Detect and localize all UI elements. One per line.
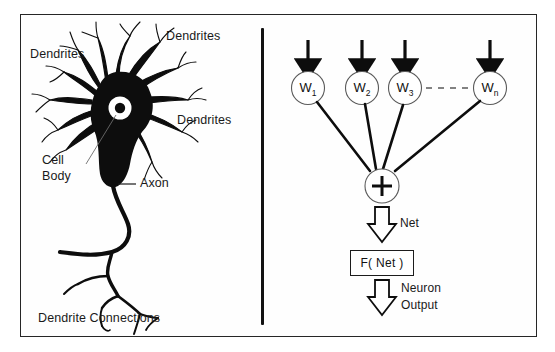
artificial-neuron-panel: W1 W2 W3 Wn bbox=[265, 14, 537, 337]
panel-divider bbox=[261, 28, 264, 325]
label-neuron-output-line1: Neuron bbox=[401, 282, 441, 295]
output-block-arrow bbox=[368, 280, 396, 315]
label-axon: Axon bbox=[140, 177, 169, 191]
label-dendrites-right: Dendrites bbox=[177, 114, 231, 128]
label-dendrites-left: Dendrites bbox=[30, 48, 84, 62]
input-arrows bbox=[308, 40, 490, 63]
label-cell-body-line1: Cell bbox=[42, 154, 64, 168]
label-cell-body-line2: Body bbox=[42, 170, 71, 184]
label-dendrite-connections: Dendrite Connections bbox=[38, 312, 160, 326]
nucleus-core bbox=[115, 103, 125, 113]
label-neuron-output-line2: Output bbox=[401, 299, 438, 312]
soma-cell-body bbox=[91, 72, 153, 188]
net-block-arrow bbox=[368, 207, 396, 242]
activation-function-box: F( Net ) bbox=[350, 250, 414, 276]
label-dendrites-top-right: Dendrites bbox=[166, 30, 220, 44]
biological-neuron-panel: Dendrites Dendrites Dendrites Cell Body … bbox=[20, 14, 262, 337]
weight-to-sum-connections bbox=[317, 101, 480, 171]
axon bbox=[60, 186, 129, 255]
figure-root: Dendrites Dendrites Dendrites Cell Body … bbox=[0, 0, 555, 352]
label-net: Net bbox=[400, 217, 419, 230]
